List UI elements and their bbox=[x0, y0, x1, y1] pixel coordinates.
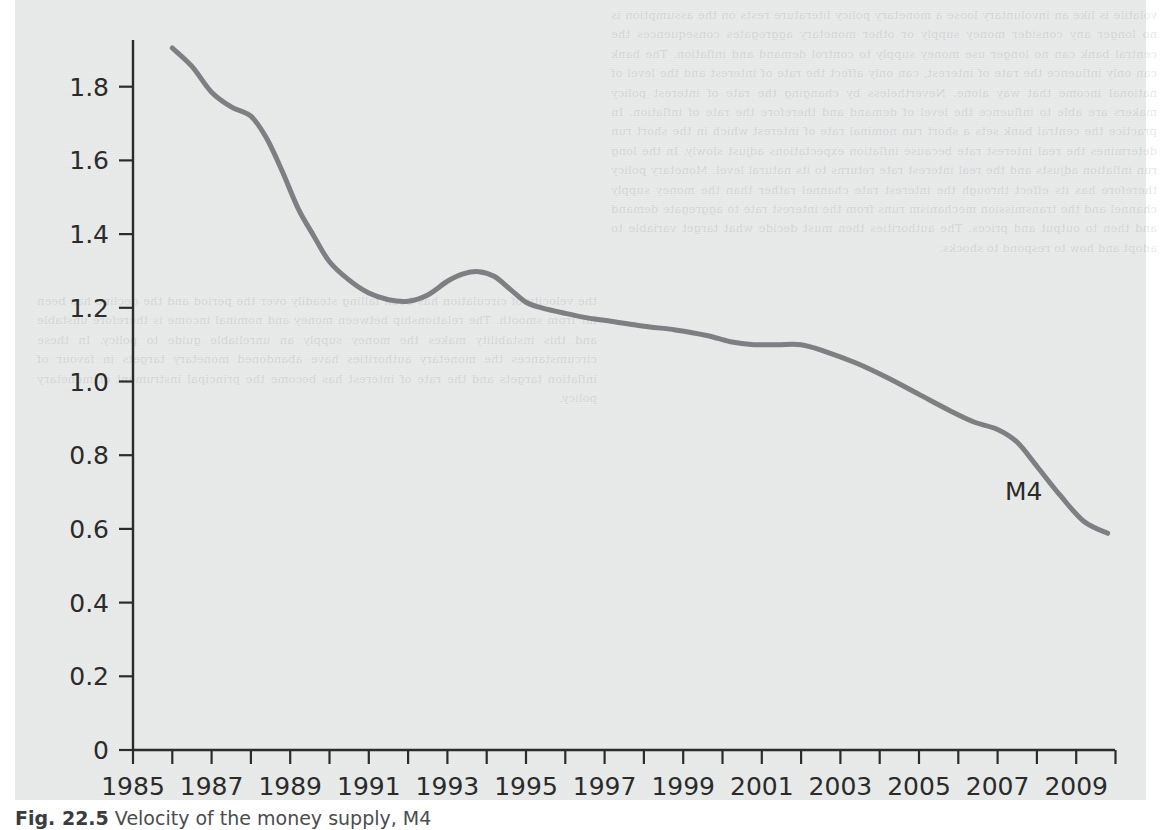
x-tick-label: 2001 bbox=[730, 772, 794, 801]
x-tick-label: 1991 bbox=[337, 772, 401, 801]
x-tick-label: 1985 bbox=[101, 772, 165, 801]
page-root: volatile is like an involuntary loose a … bbox=[0, 0, 1168, 830]
y-tick-label: 1.6 bbox=[69, 146, 109, 175]
line-chart: 00.20.40.60.81.01.21.41.61.8 19851987198… bbox=[0, 0, 1168, 830]
x-axis-ticks bbox=[133, 750, 1116, 764]
figure-caption: Fig. 22.5 Velocity of the money supply, … bbox=[15, 806, 1146, 830]
x-tick-label: 1993 bbox=[416, 772, 480, 801]
y-tick-label: 0.8 bbox=[69, 441, 109, 470]
series-label-m4: M4 bbox=[1005, 477, 1042, 506]
x-tick-label: 2005 bbox=[887, 772, 951, 801]
y-axis-tick-labels: 00.20.40.60.81.01.21.41.61.8 bbox=[69, 73, 109, 765]
y-tick-label: 0.2 bbox=[69, 662, 109, 691]
x-tick-label: 2009 bbox=[1044, 772, 1108, 801]
y-axis-ticks bbox=[119, 87, 133, 750]
x-tick-label: 1995 bbox=[494, 772, 558, 801]
y-tick-label: 1.8 bbox=[69, 73, 109, 102]
x-tick-label: 1989 bbox=[258, 772, 322, 801]
y-tick-label: 1.2 bbox=[69, 294, 109, 323]
x-tick-label: 1997 bbox=[573, 772, 637, 801]
y-tick-label: 1.4 bbox=[69, 220, 109, 249]
series-line-m4 bbox=[172, 48, 1107, 533]
x-tick-label: 1987 bbox=[180, 772, 244, 801]
figure-number: Fig. 22.5 bbox=[15, 807, 109, 829]
x-tick-label: 1999 bbox=[651, 772, 715, 801]
y-tick-label: 0.6 bbox=[69, 515, 109, 544]
x-tick-label: 2007 bbox=[966, 772, 1030, 801]
y-tick-label: 1.0 bbox=[69, 368, 109, 397]
y-tick-label: 0 bbox=[93, 736, 109, 765]
x-tick-label: 2003 bbox=[809, 772, 873, 801]
y-tick-label: 0.4 bbox=[69, 589, 109, 618]
x-axis-tick-labels: 1985198719891991199319951997199920012003… bbox=[101, 772, 1108, 801]
figure-caption-text: Velocity of the money supply, M4 bbox=[115, 807, 431, 829]
